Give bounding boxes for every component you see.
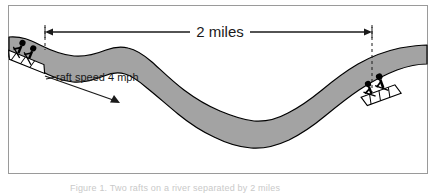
figure-caption-partial: Figure 1. Two rafts on a river separated… [70,183,370,193]
river-diagram: 2 miles raft speed 4 mph [0,0,436,193]
distance-label: 2 miles [196,23,244,40]
figure-root: 2 miles raft speed 4 mph [0,0,436,193]
speed-label: raft speed 4 mph [56,71,139,83]
